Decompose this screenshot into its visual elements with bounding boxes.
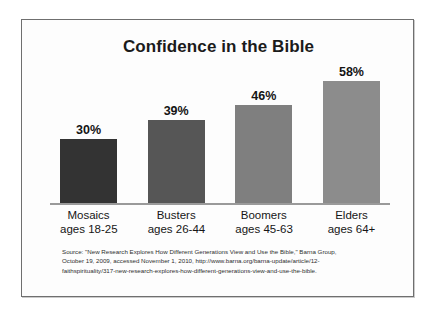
bar-busters — [148, 120, 205, 203]
bar-mosaics — [60, 139, 117, 203]
screenshot-page: Confidence in the Bible 30% 39% 46% 58% — [0, 0, 443, 315]
source-line-2: October 19, 2009, accessed November 1, 2… — [62, 256, 382, 265]
bar-elders — [323, 81, 380, 203]
bar-value-label: 39% — [164, 104, 189, 118]
category-name: Boomers — [235, 208, 292, 222]
figure-frame: Confidence in the Bible 30% 39% 46% 58% — [21, 19, 414, 297]
category-axis-labels: Mosaics ages 18-25 Busters ages 26-44 Bo… — [60, 208, 380, 236]
category-ages: ages 64+ — [323, 222, 380, 236]
source-line-3: faithspirituality/317-new-research-explo… — [62, 266, 382, 275]
category-name: Elders — [323, 208, 380, 222]
axis-baseline — [50, 203, 390, 205]
category-label-elders: Elders ages 64+ — [323, 208, 380, 236]
bar-value-label: 30% — [76, 123, 101, 137]
chart-plot-area: 30% 39% 46% 58% — [60, 65, 380, 203]
category-name: Mosaics — [60, 208, 117, 222]
category-ages: ages 18-25 — [60, 222, 117, 236]
bar-group-mosaics: 30% — [60, 65, 117, 203]
source-line-1: Source: "New Research Explores How Diffe… — [62, 247, 382, 256]
bar-group-elders: 58% — [323, 65, 380, 203]
category-label-busters: Busters ages 26-44 — [148, 208, 205, 236]
bar-value-label: 58% — [339, 65, 364, 79]
category-name: Busters — [148, 208, 205, 222]
page-title: Confidence in the Bible — [22, 37, 415, 57]
category-label-boomers: Boomers ages 45-63 — [235, 208, 292, 236]
bar-series: 30% 39% 46% 58% — [60, 65, 380, 203]
bar-group-boomers: 46% — [235, 65, 292, 203]
bar-value-label: 46% — [251, 89, 276, 103]
category-ages: ages 45-63 — [235, 222, 292, 236]
bar-boomers — [235, 105, 292, 203]
category-ages: ages 26-44 — [148, 222, 205, 236]
source-citation: Source: "New Research Explores How Diffe… — [62, 247, 382, 275]
bar-group-busters: 39% — [148, 65, 205, 203]
category-label-mosaics: Mosaics ages 18-25 — [60, 208, 117, 236]
